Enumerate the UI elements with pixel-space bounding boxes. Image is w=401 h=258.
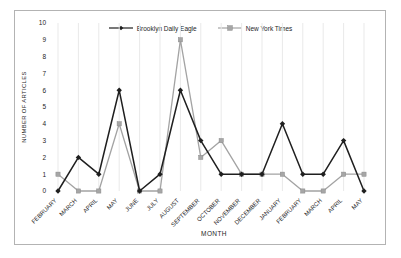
y-tick-label: 1 (42, 171, 46, 178)
chart-frame: Brooklyn Daily Eagle New York Times 0123… (14, 10, 386, 245)
x-category-label: APRIL (82, 197, 99, 214)
square-marker-icon (117, 122, 121, 126)
square-marker-icon (56, 172, 60, 176)
square-marker-icon (342, 172, 346, 176)
x-category-label: MARCH (58, 197, 78, 217)
series-square (56, 38, 366, 193)
square-marker-icon (280, 172, 284, 176)
x-category-label: JULY (145, 197, 159, 211)
x-category-label: MAY (351, 197, 364, 210)
y-tick-label: 0 (42, 187, 46, 194)
y-tick-label: 7 (42, 70, 46, 77)
square-marker-icon (178, 38, 182, 42)
square-marker-icon (362, 172, 366, 176)
y-tick-label: 10 (39, 19, 47, 26)
diamond-marker-icon (300, 172, 305, 177)
x-category-label: MARCH (303, 197, 323, 217)
x-category-label: FEBRUARY (30, 197, 57, 224)
square-marker-icon (199, 155, 203, 159)
square-marker-icon (76, 189, 80, 193)
square-marker-icon (158, 189, 162, 193)
square-marker-icon (321, 189, 325, 193)
y-tick-label: 4 (42, 120, 46, 127)
y-tick-label: 2 (42, 154, 46, 161)
square-marker-icon (219, 139, 223, 143)
x-axis-title: MONTH (201, 230, 227, 237)
diamond-marker-icon (178, 88, 183, 93)
x-category-label: MAY (106, 197, 119, 210)
square-marker-icon (301, 189, 305, 193)
series-line (58, 40, 364, 191)
y-tick-label: 8 (42, 53, 46, 60)
plot-svg: 012345678910FEBRUARYMARCHAPRILMAYJUNEJUL… (15, 11, 385, 244)
diamond-marker-icon (117, 88, 122, 93)
x-category-label: APRIL (327, 197, 344, 214)
series-diamond (55, 88, 366, 194)
diamond-marker-icon (361, 188, 366, 193)
y-tick-label: 6 (42, 87, 46, 94)
y-tick-label: 9 (42, 36, 46, 43)
diamond-marker-icon (280, 121, 285, 126)
square-marker-icon (97, 189, 101, 193)
y-tick-label: 3 (42, 137, 46, 144)
x-category-label: JUNE (124, 197, 139, 212)
y-tick-label: 5 (42, 103, 46, 110)
y-axis-title: NUMBER OF ARTICLES (21, 71, 27, 143)
